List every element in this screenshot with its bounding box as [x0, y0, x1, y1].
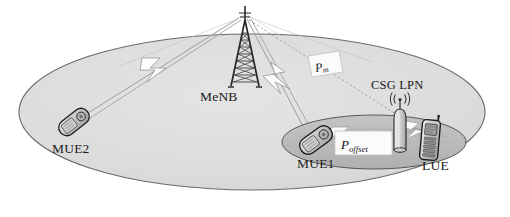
menb-label: MeNB [200, 90, 238, 104]
mue1-label: MUE1 [297, 157, 335, 171]
mue2-label: MUE2 [52, 142, 90, 156]
network-diagram-figure: MeNB MUE2 MUE1 LUE CSG LPN Pm Poffset [0, 0, 510, 217]
diagram-canvas [0, 0, 510, 217]
p-offset-annotation-label: Poffset [341, 136, 368, 153]
csg-lpn-label: CSG LPN [371, 79, 423, 92]
p-m-subscript: m [322, 65, 329, 75]
p-m-annotation-label: Pm [314, 57, 330, 76]
p-offset-base: P [341, 137, 349, 152]
p-offset-subscript: offset [349, 144, 368, 154]
lue-label: LUE [422, 159, 449, 173]
